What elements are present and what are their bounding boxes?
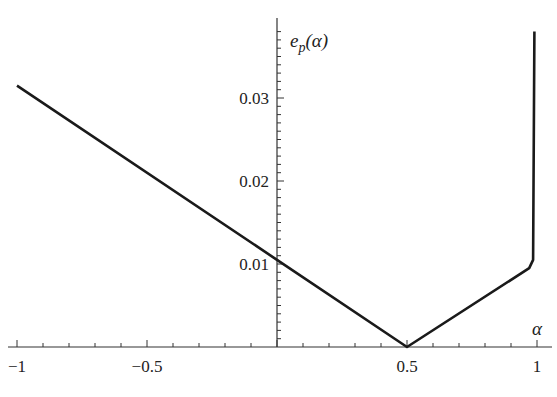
plot-line-ep bbox=[17, 32, 534, 347]
chart: −1−0.50.51 0.010.020.03 α ep(α) bbox=[0, 0, 557, 397]
x-tick-label: 1 bbox=[533, 357, 542, 376]
y-axis-label: ep(α) bbox=[290, 30, 328, 55]
y-tick-label: 0.01 bbox=[239, 255, 269, 274]
x-axis-label: α bbox=[532, 318, 543, 339]
x-axis: −1−0.50.51 bbox=[8, 340, 552, 376]
y-tick-label: 0.03 bbox=[239, 89, 269, 108]
x-tick-label: 0.5 bbox=[396, 357, 417, 376]
x-tick-label: −0.5 bbox=[132, 357, 163, 376]
y-axis: 0.010.020.03 bbox=[239, 18, 284, 347]
y-tick-label: 0.02 bbox=[239, 172, 269, 191]
x-tick-label: −1 bbox=[8, 357, 26, 376]
